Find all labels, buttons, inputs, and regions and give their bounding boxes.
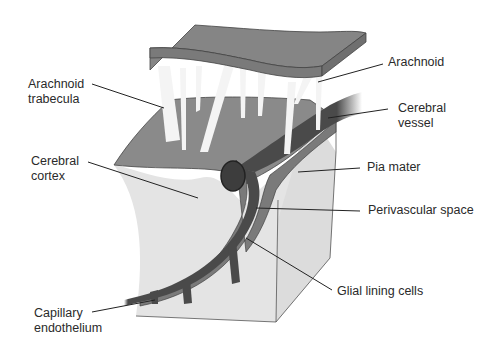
label-glial-lining-cells: Glial lining cells	[337, 284, 423, 299]
vessel-lumen	[221, 161, 245, 191]
label-capillary-endothelium: Capillary endothelium	[34, 306, 102, 336]
label-cerebral-cortex: Cerebral cortex	[31, 154, 79, 184]
label-pia-mater: Pia mater	[367, 160, 421, 175]
label-cerebral-vessel: Cerebral vessel	[398, 101, 446, 131]
label-arachnoid-trabecula: Arachnoid trabecula	[28, 77, 84, 107]
label-arachnoid: Arachnoid	[388, 55, 444, 70]
label-perivascular-space: Perivascular space	[368, 203, 474, 218]
